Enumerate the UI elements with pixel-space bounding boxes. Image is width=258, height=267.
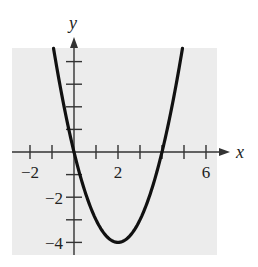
y-axis-arrow-icon <box>70 37 78 48</box>
x-axis-arrow-icon <box>219 148 230 156</box>
x-tick-label: 6 <box>202 163 211 182</box>
y-axis-label: y <box>67 13 77 33</box>
y-tick-label: −2 <box>45 189 63 208</box>
y-tick-label: −4 <box>45 234 64 253</box>
x-axis-label: x <box>235 142 244 162</box>
chart: x y −2 2 6 −2 −4 <box>0 0 258 267</box>
x-tick-label: −2 <box>21 163 39 182</box>
x-tick-label: 2 <box>114 163 123 182</box>
